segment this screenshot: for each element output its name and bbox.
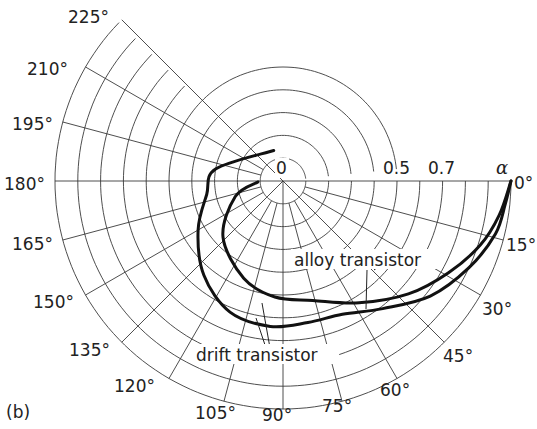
angle-label-75: 75°: [322, 396, 352, 416]
angle-label-30: 30°: [482, 299, 512, 319]
radial-label-0.5: 0.5: [383, 158, 410, 178]
polar-chart: alloy transistor drift transistor 0 0.5 …: [0, 0, 537, 429]
angle-label-0: 0°: [514, 173, 533, 193]
drift-transistor-curve: [198, 151, 511, 327]
angle-label-165: 165°: [12, 234, 53, 254]
alloy-transistor-label: alloy transistor: [294, 250, 421, 270]
grid-spoke: [63, 187, 261, 240]
grid-spoke: [122, 20, 283, 181]
angle-label-60: 60°: [380, 380, 410, 400]
panel-label: (b): [6, 402, 30, 422]
grid-spoke: [63, 122, 261, 175]
angle-label-45: 45°: [443, 346, 473, 366]
grid-spoke: [86, 67, 264, 170]
drift-leader-1: [256, 318, 266, 348]
grid-spoke: [305, 187, 503, 240]
grid-spoke: [224, 203, 277, 401]
grid-spoke: [86, 192, 264, 295]
drift-transistor-label: drift transistor: [196, 345, 318, 365]
angle-label-180: 180°: [4, 174, 45, 194]
angle-label-15: 15°: [506, 235, 536, 255]
angle-label-105: 105°: [195, 403, 236, 423]
angle-label-90: 90°: [262, 405, 292, 425]
angle-label-210: 210°: [27, 59, 68, 79]
angle-label-150: 150°: [33, 292, 74, 312]
radial-axis-label-alpha: α: [496, 157, 508, 178]
angle-label-135: 135°: [69, 340, 110, 360]
radial-label-0.7: 0.7: [428, 158, 455, 178]
curves: [198, 151, 511, 327]
angle-label-225: 225°: [68, 7, 109, 27]
angle-label-195: 195°: [12, 114, 53, 134]
radial-label-0: 0: [276, 158, 287, 178]
angle-label-120: 120°: [114, 376, 155, 396]
